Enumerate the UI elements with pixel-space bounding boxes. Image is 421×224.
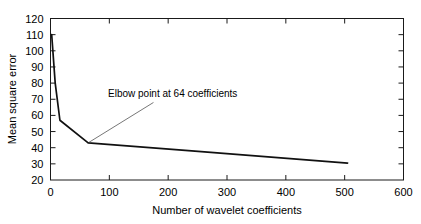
y-tick-label: 80 — [31, 77, 43, 89]
y-tick-label: 120 — [25, 13, 43, 25]
x-axis-title: Number of wavelet coefficients — [152, 204, 302, 216]
x-axis-tick-labels: 0100200300400500600 — [47, 186, 412, 198]
y-tick-label: 30 — [31, 158, 43, 170]
x-tick-label: 0 — [47, 186, 53, 198]
x-tick-label: 500 — [335, 186, 353, 198]
x-tick-label: 100 — [100, 186, 118, 198]
y-axis-ticks-right — [399, 35, 404, 164]
y-axis-title: Mean square error — [6, 53, 18, 144]
chart-figure: 2030405060708090100110120 01002003004005… — [0, 0, 421, 224]
x-tick-label: 600 — [394, 186, 412, 198]
y-axis-tick-labels: 2030405060708090100110120 — [25, 13, 43, 187]
y-tick-label: 50 — [31, 126, 43, 138]
x-tick-label: 200 — [159, 186, 177, 198]
plot-frame — [51, 19, 404, 181]
x-tick-label: 300 — [218, 186, 236, 198]
annotation-leader-line — [88, 102, 153, 142]
mean-square-error-line-chart: 2030405060708090100110120 01002003004005… — [0, 0, 421, 224]
x-axis-ticks — [109, 19, 344, 181]
y-tick-label: 60 — [31, 109, 43, 121]
y-tick-label: 110 — [26, 29, 44, 41]
y-tick-label: 20 — [31, 174, 43, 186]
y-tick-label: 40 — [31, 142, 43, 154]
y-tick-label: 90 — [31, 61, 43, 73]
y-tick-label: 100 — [25, 45, 43, 57]
x-tick-label: 400 — [277, 186, 295, 198]
y-tick-label: 70 — [31, 93, 43, 105]
annotation-label: Elbow point at 64 coefficients — [108, 88, 237, 99]
